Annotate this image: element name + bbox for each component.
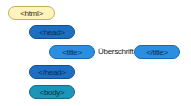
- title-open-tag: <title>: [49, 45, 95, 59]
- body-open-tag: <body>: [29, 85, 75, 99]
- html-tag: <html>: [8, 6, 55, 20]
- head-close-tag: </head>: [29, 65, 75, 79]
- title-text: Überschrift: [98, 45, 133, 59]
- head-open-tag: <head>: [29, 25, 75, 39]
- title-close-tag: </title>: [134, 45, 180, 59]
